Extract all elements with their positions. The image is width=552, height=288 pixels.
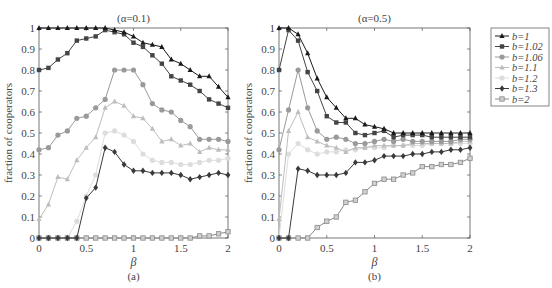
circle-marker (305, 147, 310, 152)
y-tick-label: 0.9 (261, 43, 275, 55)
circle-marker (178, 118, 183, 123)
square-marker (37, 68, 41, 72)
square-marker (353, 131, 357, 135)
y-tick-label: 0.6 (21, 106, 35, 118)
square-marker (84, 236, 88, 240)
circle-marker (499, 54, 504, 59)
square-marker (449, 162, 453, 166)
triangle-marker (286, 128, 291, 133)
square-marker (305, 70, 309, 74)
panel-title: (α=0.1) (117, 12, 150, 25)
square-marker (131, 236, 135, 240)
circle-marker (216, 137, 221, 142)
circle-marker (65, 128, 70, 133)
circle-marker (36, 147, 41, 152)
diamond-marker (188, 176, 193, 182)
triangle-marker (207, 145, 212, 150)
square-marker (56, 57, 60, 61)
circle-marker (305, 105, 310, 110)
circle-marker (207, 158, 212, 163)
x-tick-label: 0 (36, 242, 42, 254)
series-b-1-06 (276, 67, 472, 152)
legend-label: b=2 (512, 94, 530, 105)
x-tick-label: 2 (467, 242, 473, 254)
square-marker (160, 62, 164, 66)
square-marker (305, 236, 309, 240)
series-b-1-3 (277, 145, 473, 242)
circle-marker (410, 139, 415, 144)
square-marker (179, 236, 183, 240)
circle-marker (276, 147, 281, 152)
square-marker (131, 41, 135, 45)
circle-marker (140, 151, 145, 156)
figure: 00.10.20.30.40.50.60.70.80.9100.511.52(α… (0, 0, 552, 288)
y-tick-label: 0.5 (21, 127, 35, 139)
circle-marker (103, 130, 108, 135)
diamond-marker (324, 172, 329, 178)
series-line (39, 131, 228, 238)
diamond-marker (207, 172, 212, 178)
y-tick-label: 0 (270, 232, 276, 244)
series-b-1-3 (37, 145, 231, 242)
circle-marker (343, 137, 348, 142)
circle-marker (112, 128, 117, 133)
triangle-marker (55, 174, 60, 179)
square-marker (65, 51, 69, 55)
square-marker (150, 53, 154, 57)
square-marker (391, 177, 395, 181)
x-axis-label: β (130, 255, 137, 269)
triangle-marker (324, 94, 329, 99)
series-b-1-2 (36, 128, 230, 240)
circle-marker (391, 139, 396, 144)
square-marker (315, 225, 319, 229)
y-tick-label: 0 (30, 232, 36, 244)
y-tick-label: 1 (270, 22, 276, 34)
series-b-1 (276, 25, 472, 135)
circle-marker (334, 149, 339, 154)
square-marker (84, 36, 88, 40)
square-marker (197, 234, 201, 238)
y-tick-label: 0.5 (261, 127, 275, 139)
diamond-marker (334, 172, 339, 178)
square-marker (141, 45, 145, 49)
circle-marker (84, 114, 89, 119)
circle-marker (169, 160, 174, 165)
circle-marker (353, 141, 358, 146)
diamond-marker (169, 170, 174, 176)
y-axis-label: fraction of cooperators (242, 83, 254, 183)
series-b-1-2 (276, 141, 472, 241)
circle-marker (46, 145, 51, 150)
square-marker (382, 177, 386, 181)
square-marker (430, 135, 434, 139)
y-tick-label: 0.8 (261, 64, 275, 76)
x-axis-label: β (371, 255, 378, 269)
square-marker (207, 234, 211, 238)
y-tick-label: 0.1 (261, 211, 275, 223)
circle-marker (334, 135, 339, 140)
square-marker (277, 68, 281, 72)
circle-marker (131, 139, 136, 144)
triangle-marker (296, 109, 301, 114)
square-marker (334, 120, 338, 124)
square-marker (216, 232, 220, 236)
circle-marker (131, 67, 136, 72)
legend-label: b=1.1 (512, 62, 537, 73)
triangle-marker (305, 134, 310, 139)
y-tick-label: 0.7 (261, 85, 275, 97)
diamond-marker (429, 149, 434, 155)
triangle-marker (296, 31, 301, 36)
circle-marker (103, 97, 108, 102)
diamond-marker (439, 149, 444, 155)
circle-marker (216, 158, 221, 163)
series-b-1-02 (277, 28, 472, 139)
square-marker (46, 66, 50, 70)
circle-marker (439, 139, 444, 144)
x-tick-label: 0 (276, 242, 282, 254)
circle-marker (121, 133, 126, 138)
diamond-marker (159, 170, 164, 176)
square-marker (468, 156, 472, 160)
triangle-marker (93, 134, 98, 139)
square-marker (122, 236, 126, 240)
square-marker (169, 74, 173, 78)
y-tick-label: 0.7 (21, 85, 35, 97)
